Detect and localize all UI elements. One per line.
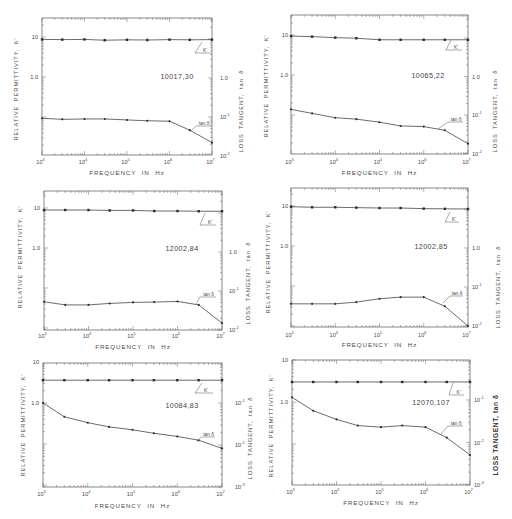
x-tick-label: 105 xyxy=(375,487,384,495)
data-point xyxy=(63,379,65,381)
x-tick-label: 105 xyxy=(374,157,383,165)
data-point xyxy=(42,402,44,404)
data-point xyxy=(197,379,199,381)
permittivity-callout-label: K' xyxy=(456,390,460,395)
x-tick-label: 106 xyxy=(164,157,173,165)
loss-tangent-callout-label: tan δ xyxy=(452,291,463,296)
data-point xyxy=(400,296,402,298)
data-point xyxy=(153,379,155,381)
right-tick-label: 10-1 xyxy=(472,110,483,118)
data-point xyxy=(290,303,292,305)
left-tick-label: 1.0 xyxy=(280,243,288,249)
x-tick-label: 106 xyxy=(172,489,181,497)
permittivity-callout-label: K' xyxy=(204,388,208,393)
data-point xyxy=(126,39,128,41)
data-point xyxy=(176,435,178,437)
permittivity-callout: K' xyxy=(445,212,459,222)
right-tick-label: 10-2 xyxy=(472,149,483,157)
chart-panel-3: K'tan δ12002,84103104105106107101.01.010… xyxy=(17,191,251,350)
sample-label: 10017,30 xyxy=(160,72,193,81)
plot-frame xyxy=(44,191,222,330)
data-point xyxy=(198,304,200,306)
loss-tangent-callout-label: tan δ xyxy=(203,432,214,437)
data-point xyxy=(444,129,446,131)
data-point xyxy=(87,379,89,381)
data-point xyxy=(355,37,357,39)
axis-ticks xyxy=(44,191,222,330)
data-point xyxy=(63,416,65,418)
data-point xyxy=(83,38,85,40)
permittivity-callout-label: K' xyxy=(454,45,458,50)
right-tick-label: 1.0 xyxy=(229,249,237,255)
data-point xyxy=(380,426,382,428)
data-point xyxy=(290,206,292,208)
data-point xyxy=(87,304,89,306)
data-point xyxy=(176,300,178,302)
chart-panel-6: K'tan δ12070,107103104105106107101.010-1… xyxy=(268,357,500,506)
data-point xyxy=(42,379,44,381)
permittivity-series xyxy=(42,379,223,381)
loss-tangent-callout: tan δ xyxy=(438,117,463,129)
data-point xyxy=(211,142,213,144)
right-tick-label: 10-3 xyxy=(474,480,485,488)
x-axis-title: FREQUENCY IN Hz xyxy=(95,502,170,509)
data-point xyxy=(109,302,111,304)
data-point xyxy=(83,118,85,120)
data-point xyxy=(64,304,66,306)
left-tick-label: 10 xyxy=(33,359,39,365)
right-axis-title: LOSS TANGENT, tan δ xyxy=(495,246,501,329)
data-point xyxy=(41,38,43,40)
permittivity-series xyxy=(41,38,213,41)
data-point xyxy=(221,322,223,324)
permittivity-callout-label: K' xyxy=(452,217,456,222)
x-tick-labels: 103104105106107 xyxy=(286,487,473,495)
data-point xyxy=(423,207,425,209)
data-point xyxy=(168,120,170,122)
data-point xyxy=(61,38,63,40)
right-tick-label: 10-2 xyxy=(220,151,231,159)
x-tick-label: 107 xyxy=(462,330,471,338)
right-axis-title: LOSS TANGENT, tan δ xyxy=(238,70,244,153)
data-point xyxy=(357,381,359,383)
data-point xyxy=(423,126,425,128)
x-tick-label: 103 xyxy=(286,487,295,495)
data-point xyxy=(108,426,110,428)
loss-tangent-callout: tan δ xyxy=(196,292,216,304)
data-point xyxy=(380,381,382,383)
data-point xyxy=(335,418,337,420)
loss-tangent-line xyxy=(44,301,222,323)
left-axis-title: RELATIVE PERMITTIVITY, K' xyxy=(265,210,271,313)
data-point xyxy=(221,379,223,381)
left-axis-title: RELATIVE PERMITTIVITY, K' xyxy=(263,34,269,137)
left-axis-title: RELATIVE PERMITTIVITY, K' xyxy=(268,374,274,477)
left-axis-title: RELATIVE PERMITTIVITY, K' xyxy=(13,37,19,140)
axis-ticks xyxy=(42,18,212,155)
data-point xyxy=(291,381,293,383)
x-axis-title: FREQUENCY IN Hz xyxy=(95,343,170,350)
leader-line xyxy=(446,40,451,50)
loss-tangent-callout-label: tan δ xyxy=(451,421,462,426)
right-tick-label: 1.0 xyxy=(472,245,480,251)
data-point xyxy=(423,39,425,41)
data-point xyxy=(211,38,213,40)
leader-line xyxy=(195,383,202,393)
x-tick-label: 103 xyxy=(38,331,47,339)
right-tick-label: 10-2 xyxy=(229,325,240,333)
data-point xyxy=(401,381,403,383)
right-tick-label: 10-1 xyxy=(229,286,240,294)
loss-tangent-series xyxy=(290,296,469,327)
data-point xyxy=(189,129,191,131)
data-point xyxy=(423,296,425,298)
data-point xyxy=(469,454,471,456)
data-point xyxy=(399,207,401,209)
data-point xyxy=(424,426,426,428)
loss-tangent-callout-label: tan δ xyxy=(199,121,210,126)
left-tick-label: 10 xyxy=(282,32,288,38)
sample-label: 12070,107 xyxy=(412,398,450,407)
permittivity-callout: K' xyxy=(200,213,216,225)
x-axis-title: FREQUENCY IN Hz xyxy=(89,169,164,176)
x-axis-title: FREQUENCY IN Hz xyxy=(342,169,417,176)
x-tick-label: 107 xyxy=(462,157,471,165)
data-point xyxy=(334,206,336,208)
left-tick-label: 10 xyxy=(282,203,288,209)
